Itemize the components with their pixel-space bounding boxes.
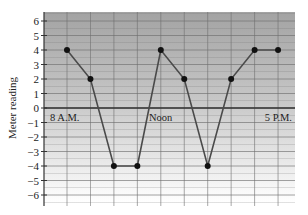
- y-tick-label: −3: [27, 146, 39, 158]
- x-label-noon: Noon: [149, 112, 173, 123]
- y-tick-label: −2: [27, 131, 39, 143]
- y-tick-label: −4: [27, 160, 39, 172]
- y-tick-label: 1: [34, 88, 40, 100]
- y-tick-label: 4: [34, 44, 40, 56]
- y-tick-label: −5: [27, 175, 39, 187]
- data-point-marker: [87, 76, 93, 82]
- data-point-marker: [64, 47, 70, 53]
- y-tick-label: −1: [27, 117, 39, 129]
- data-point-marker: [134, 163, 140, 169]
- y-tick-label: 5: [34, 30, 40, 42]
- data-point-marker: [228, 76, 234, 82]
- data-point-marker: [158, 47, 164, 53]
- y-tick-label: 0: [34, 102, 40, 114]
- y-tick-label: 3: [34, 59, 40, 71]
- data-point-marker: [205, 163, 211, 169]
- data-point-marker: [111, 163, 117, 169]
- line-chart: 6543210−1−2−3−4−5−6 8 A.M. Noon 5 P.M. M…: [0, 0, 308, 215]
- data-point-marker: [275, 47, 281, 53]
- x-label-8am: 8 A.M.: [50, 112, 79, 123]
- y-tick-label: 6: [34, 15, 40, 27]
- y-tick-label: 2: [34, 73, 40, 85]
- y-axis-title: Meter reading: [6, 77, 18, 139]
- y-tick-label: −6: [27, 189, 39, 201]
- data-point-marker: [252, 47, 258, 53]
- x-label-5pm: 5 P.M.: [265, 112, 292, 123]
- data-point-marker: [181, 76, 187, 82]
